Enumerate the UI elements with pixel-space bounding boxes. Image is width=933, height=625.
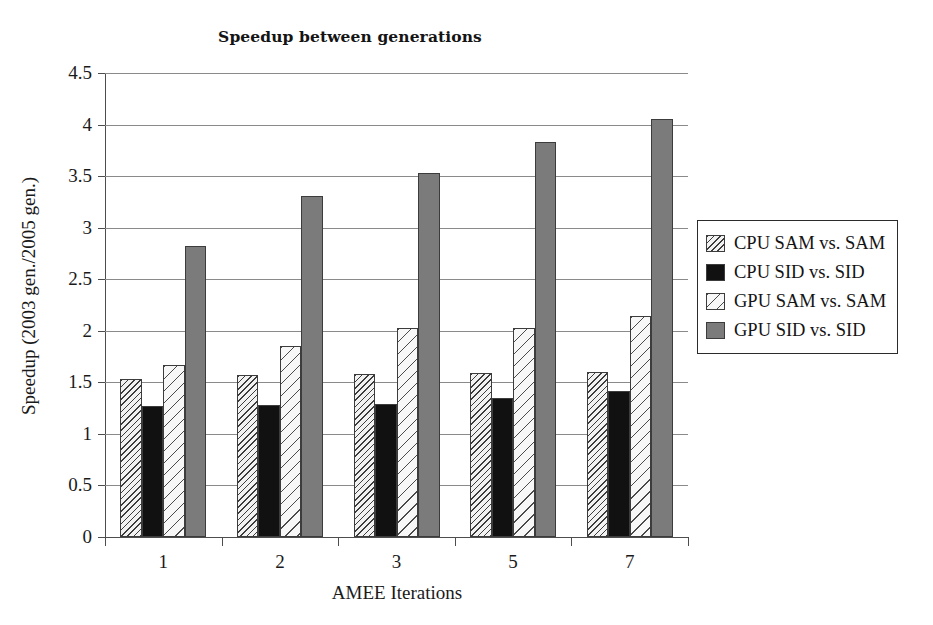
y-axis-tick-mark	[98, 382, 105, 383]
y-axis-tick-mark	[98, 485, 105, 486]
y-axis-tick-mark	[98, 434, 105, 435]
bar	[142, 406, 164, 537]
x-axis-tick-label: 2	[240, 551, 320, 573]
chart-legend: CPU SAM vs. SAMCPU SID vs. SIDGPU SAM vs…	[697, 220, 898, 354]
x-axis-tick-label: 5	[473, 551, 553, 573]
y-axis-tick-label: 1.5	[32, 372, 92, 391]
legend-item: CPU SID vs. SID	[706, 258, 886, 287]
legend-swatch-icon	[706, 235, 725, 252]
bar	[301, 196, 323, 537]
y-axis-tick-label: 3	[32, 218, 92, 237]
x-axis-tick-label: 3	[357, 551, 437, 573]
bar	[492, 398, 514, 537]
legend-item: CPU SAM vs. SAM	[706, 229, 886, 258]
bar	[630, 316, 652, 537]
y-axis-tick-mark	[98, 279, 105, 280]
bar	[418, 173, 440, 537]
bar	[397, 328, 419, 537]
bar	[185, 246, 207, 537]
x-axis-line	[105, 537, 689, 538]
bar-chart: Speedup between generations Speedup (200…	[0, 0, 933, 625]
y-axis-tick-label: 3.5	[32, 166, 92, 185]
x-axis-tick-mark	[105, 538, 106, 546]
gridline	[105, 125, 688, 126]
gridline	[105, 176, 688, 177]
bar	[513, 328, 535, 537]
legend-swatch-icon	[706, 264, 725, 281]
bar	[237, 375, 259, 537]
x-axis-tick-mark	[222, 538, 223, 546]
bar	[535, 142, 557, 537]
x-axis-tick-label: 1	[123, 551, 203, 573]
legend-item-label: GPU SAM vs. SAM	[734, 291, 886, 312]
plot-area	[105, 73, 688, 537]
bar	[280, 346, 302, 537]
y-axis-tick-mark	[98, 331, 105, 332]
bar	[587, 372, 609, 537]
x-axis-tick-mark	[688, 538, 689, 546]
y-axis-tick-mark	[98, 228, 105, 229]
x-axis-tick-mark	[455, 538, 456, 546]
x-axis-title: AMEE Iterations	[105, 582, 689, 604]
legend-item: GPU SAM vs. SAM	[706, 287, 886, 316]
y-axis-tick-label: 2	[32, 321, 92, 340]
legend-swatch-icon	[706, 293, 725, 310]
gridline	[105, 228, 688, 229]
legend-item-label: GPU SID vs. SID	[734, 320, 866, 341]
bar	[470, 373, 492, 537]
y-axis-tick-mark	[98, 537, 105, 538]
y-axis-tick-label: 4.5	[32, 63, 92, 82]
bar	[120, 379, 142, 537]
y-axis-tick-labels: 00.511.522.533.544.5	[28, 0, 92, 625]
y-axis-tick-label: 2.5	[32, 269, 92, 288]
y-axis-tick-mark	[98, 73, 105, 74]
bar	[608, 391, 630, 537]
y-axis-tick-label: 4	[32, 115, 92, 134]
gridline	[105, 73, 688, 74]
bar	[651, 119, 673, 537]
x-axis-tick-label: 7	[590, 551, 670, 573]
y-axis-tick-label: 1	[32, 424, 92, 443]
y-axis-tick-label: 0	[32, 527, 92, 546]
legend-item-label: CPU SID vs. SID	[734, 262, 865, 283]
chart-title: Speedup between generations	[0, 27, 700, 46]
y-axis-tick-label: 0.5	[32, 475, 92, 494]
x-axis-tick-mark	[338, 538, 339, 546]
bar	[375, 404, 397, 537]
legend-swatch-icon	[706, 322, 725, 339]
legend-item-label: CPU SAM vs. SAM	[734, 233, 885, 254]
legend-item: GPU SID vs. SID	[706, 316, 886, 345]
bar	[163, 365, 185, 537]
bar	[258, 405, 280, 537]
bar	[354, 374, 376, 537]
x-axis-tick-mark	[571, 538, 572, 546]
y-axis-tick-mark	[98, 176, 105, 177]
y-axis-tick-mark	[98, 125, 105, 126]
